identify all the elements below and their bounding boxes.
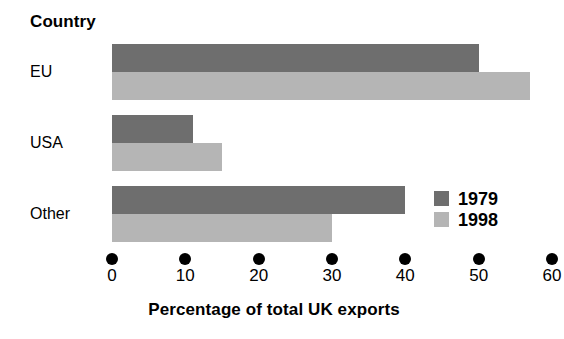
bar-usa-1998 xyxy=(112,143,222,171)
y-axis-title: Country xyxy=(30,12,96,32)
tick-dot-icon xyxy=(253,253,265,265)
bar-chart: Country EUUSAOther 0102030405060 Percent… xyxy=(0,0,564,339)
x-axis-title: Percentage of total UK exports xyxy=(104,300,444,320)
tick-dot-icon xyxy=(106,253,118,265)
legend-label: 1998 xyxy=(458,211,498,229)
x-tick-label: 30 xyxy=(312,267,352,284)
category-label-usa: USA xyxy=(30,135,63,151)
legend: 19791998 xyxy=(434,188,498,230)
legend-item-1998: 1998 xyxy=(434,209,498,230)
category-label-eu: EU xyxy=(30,64,52,80)
bar-group-eu xyxy=(112,44,552,100)
bar-other-1998 xyxy=(112,214,332,242)
x-tick-label: 40 xyxy=(385,267,425,284)
bar-usa-1979 xyxy=(112,115,193,143)
tick-dot-icon xyxy=(399,253,411,265)
x-tick-label: 10 xyxy=(165,267,205,284)
category-label-other: Other xyxy=(30,206,70,222)
legend-item-1979: 1979 xyxy=(434,188,498,209)
tick-dot-icon xyxy=(473,253,485,265)
x-axis: 0102030405060 xyxy=(112,253,552,299)
x-tick-label: 20 xyxy=(239,267,279,284)
bar-other-1979 xyxy=(112,186,405,214)
x-tick-label: 60 xyxy=(532,267,564,284)
x-tick-label: 50 xyxy=(459,267,499,284)
tick-dot-icon xyxy=(546,253,558,265)
tick-dot-icon xyxy=(326,253,338,265)
legend-label: 1979 xyxy=(458,190,498,208)
legend-swatch-icon xyxy=(434,191,449,206)
bar-group-usa xyxy=(112,115,552,171)
bar-eu-1979 xyxy=(112,44,479,72)
tick-dot-icon xyxy=(179,253,191,265)
x-tick-label: 0 xyxy=(92,267,132,284)
legend-swatch-icon xyxy=(434,212,449,227)
bar-eu-1998 xyxy=(112,72,530,100)
